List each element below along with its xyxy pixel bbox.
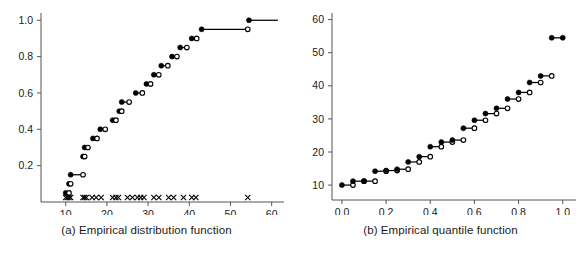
ecdf-open-point <box>68 182 73 187</box>
ecdf-open-point <box>175 54 180 59</box>
x-tick-label-b: 0.2 <box>379 206 394 215</box>
plot-area-a: 0.20.40.60.81.0102030405060 <box>0 0 293 215</box>
x-tick-label-b: 0.6 <box>467 206 482 215</box>
quantile-open-point <box>428 154 433 159</box>
quantile-open-point <box>549 74 554 79</box>
ecdf-closed-point <box>151 72 156 77</box>
figure-container: 0.20.40.60.81.0102030405060 (a) Empirica… <box>0 0 587 253</box>
ecdf-closed-point <box>159 63 164 68</box>
quantile-closed-point <box>395 167 400 172</box>
x-tick-label-a: 10 <box>60 208 72 215</box>
quantile-closed-point <box>505 97 510 102</box>
ecdf-closed-point <box>199 27 204 32</box>
rug-mark-x-icon <box>193 195 198 200</box>
quantile-open-point <box>406 167 411 172</box>
ecdf-open-point <box>82 154 87 159</box>
y-tick-label-b: 30 <box>312 113 324 125</box>
quantile-closed-point <box>538 73 543 78</box>
ecdf-open-point <box>81 172 86 177</box>
y-tick-label-b: 50 <box>312 46 324 58</box>
quantile-open-point <box>505 106 510 111</box>
ecdf-plot: 0.20.40.60.81.0102030405060 <box>0 0 293 215</box>
ecdf-open-point <box>148 82 153 87</box>
y-tick-label-b: 10 <box>312 179 324 191</box>
ecdf-closed-point <box>246 18 251 23</box>
quantile-closed-point <box>417 154 422 159</box>
rug-mark-x-icon <box>166 195 171 200</box>
y-tick-label-b: 20 <box>312 146 324 158</box>
quantile-closed-point <box>472 118 477 123</box>
y-tick-label-a: 0.8 <box>18 50 33 62</box>
ecdf-open-point <box>67 191 72 196</box>
quantile-open-point <box>472 126 477 131</box>
ecdf-closed-point <box>119 100 124 105</box>
ecdf-closed-point <box>169 54 174 59</box>
rug-mark-x-icon <box>94 195 99 200</box>
ecdf-closed-point <box>98 127 103 132</box>
ecdf-closed-point <box>189 36 194 41</box>
quantile-closed-point <box>527 80 532 85</box>
ecdf-open-point <box>245 27 250 32</box>
x-tick-label-a: 50 <box>225 208 237 215</box>
rug-mark-x-icon <box>151 195 156 200</box>
panel-empirical-distribution-function: 0.20.40.60.81.0102030405060 (a) Empirica… <box>0 0 293 253</box>
rug-mark-x-icon <box>99 195 104 200</box>
quantile-open-point <box>439 144 444 149</box>
x-tick-label-b: 0.0 <box>335 206 350 215</box>
quantile-closed-point <box>461 126 466 131</box>
quantile-open-point <box>373 179 378 184</box>
ecdf-open-point <box>127 100 132 105</box>
x-tick-label-a: 20 <box>101 208 113 215</box>
ecdf-open-point <box>156 72 161 77</box>
rug-mark-x-icon <box>130 195 135 200</box>
x-tick-label-a: 40 <box>183 208 195 215</box>
quantile-open-point <box>483 118 488 123</box>
quantile-closed-point <box>350 179 355 184</box>
quantile-open-point <box>417 160 422 165</box>
ecdf-closed-point <box>68 172 73 177</box>
y-tick-label-b: 60 <box>312 13 324 25</box>
quantile-closed-point <box>450 138 455 143</box>
rug-mark-x-icon <box>181 195 186 200</box>
ecdf-open-point <box>95 136 100 141</box>
quantile-open-point <box>461 138 466 143</box>
x-tick-label-a: 60 <box>266 208 278 215</box>
quantile-closed-point <box>549 35 554 40</box>
quantile-closed-point <box>373 169 378 174</box>
quantile-closed-point <box>384 168 389 173</box>
quantile-closed-point <box>439 140 444 145</box>
ecdf-open-point <box>140 91 145 96</box>
panel-a-caption: (a) Empirical distribution function <box>0 224 293 236</box>
ecdf-open-point <box>114 118 119 123</box>
ecdf-open-point <box>185 45 190 50</box>
ecdf-open-point <box>166 63 171 68</box>
quantile-open-point <box>538 80 543 85</box>
quantile-open-point <box>516 97 521 102</box>
ecdf-closed-point <box>133 90 138 95</box>
quantile-closed-point <box>483 111 488 116</box>
rug-mark-x-icon <box>171 195 176 200</box>
ecdf-open-point <box>86 145 91 150</box>
panel-b-caption: (b) Empirical quantile function <box>294 224 587 236</box>
quantile-closed-point <box>428 144 433 149</box>
quantile-closed-point <box>339 183 344 188</box>
quantile-open-point <box>494 111 499 116</box>
ecdf-open-point <box>194 36 199 41</box>
rug-mark-x-icon <box>141 195 146 200</box>
x-tick-label-b: 0.4 <box>423 206 438 215</box>
quantile-plot: 1020304050600.00.20.40.60.81.0 <box>294 0 587 215</box>
rug-mark-x-icon <box>245 195 250 200</box>
quantile-closed-point <box>494 106 499 111</box>
quantile-closed-point <box>406 159 411 164</box>
panel-empirical-quantile-function: 1020304050600.00.20.40.60.81.0 (b) Empir… <box>294 0 587 253</box>
y-tick-label-b: 40 <box>312 79 324 91</box>
ecdf-open-point <box>119 109 124 114</box>
x-tick-label-a: 30 <box>142 208 154 215</box>
y-tick-label-a: 1.0 <box>18 14 33 26</box>
y-tick-label-a: 0.2 <box>18 159 33 171</box>
quantile-open-point <box>527 90 532 95</box>
plot-area-b: 1020304050600.00.20.40.60.81.0 <box>294 0 587 215</box>
ecdf-open-point <box>103 127 108 132</box>
y-tick-label-a: 0.6 <box>18 87 33 99</box>
rug-mark-x-icon <box>125 195 130 200</box>
